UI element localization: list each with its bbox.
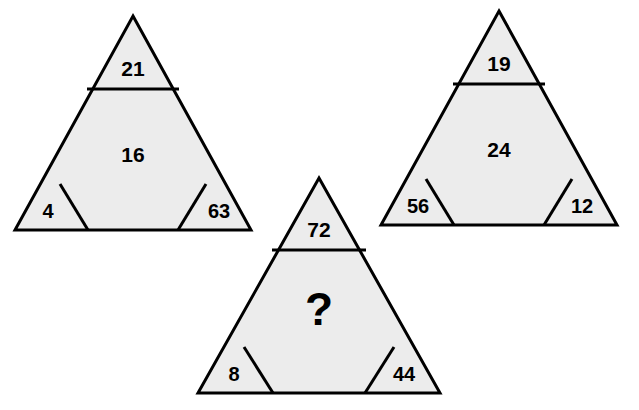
triangle-right-top-value: 19 bbox=[487, 52, 510, 75]
triangle-bottom-left-value: 8 bbox=[228, 363, 239, 385]
triangle-left-bottom-left-value: 4 bbox=[42, 200, 54, 222]
triangle-bottom-right-value: 44 bbox=[393, 363, 416, 385]
triangle-bottom: 72 ? 8 44 bbox=[190, 172, 450, 402]
triangle-bottom-top-value: 72 bbox=[307, 218, 330, 241]
triangle-bottom-middle-value: ? bbox=[305, 283, 333, 335]
triangle-left-middle-value: 16 bbox=[121, 143, 144, 166]
triangle-right-middle-value: 24 bbox=[487, 138, 511, 161]
puzzle-stage: 21 16 4 63 19 24 56 12 72 ? 8 44 bbox=[0, 0, 639, 410]
triangle-right-bottom-right-value: 12 bbox=[571, 195, 593, 217]
triangle-left-top-value: 21 bbox=[121, 57, 145, 80]
